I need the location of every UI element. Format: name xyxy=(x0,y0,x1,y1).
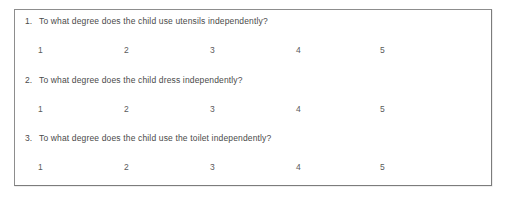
scale-option-3-2[interactable]: 2 xyxy=(124,162,144,172)
question-block-1: 1. To what degree does the child use ute… xyxy=(15,16,491,61)
scale-option-3-5[interactable]: 5 xyxy=(380,162,400,172)
rating-scale-1: 1 2 3 4 5 xyxy=(15,45,491,61)
question-row-3: 3. To what degree does the child use the… xyxy=(15,133,491,149)
scale-option-1-4[interactable]: 4 xyxy=(296,45,316,55)
survey-page: 1. To what degree does the child use ute… xyxy=(0,0,510,203)
question-block-3: 3. To what degree does the child use the… xyxy=(15,133,491,178)
scale-option-3-3[interactable]: 3 xyxy=(210,162,230,172)
question-text-1: To what degree does the child use utensi… xyxy=(39,16,268,26)
question-number-3: 3. xyxy=(25,133,39,143)
scale-option-2-1[interactable]: 1 xyxy=(38,104,58,114)
scale-option-3-1[interactable]: 1 xyxy=(38,162,58,172)
scale-option-3-4[interactable]: 4 xyxy=(296,162,316,172)
scale-option-1-1[interactable]: 1 xyxy=(38,45,58,55)
question-text-3: To what degree does the child use the to… xyxy=(39,133,271,143)
scale-option-1-3[interactable]: 3 xyxy=(210,45,230,55)
scale-option-1-5[interactable]: 5 xyxy=(380,45,400,55)
question-number-2: 2. xyxy=(25,75,39,85)
questionnaire-box: 1. To what degree does the child use ute… xyxy=(14,9,492,186)
rating-scale-3: 1 2 3 4 5 xyxy=(15,162,491,178)
scale-option-1-2[interactable]: 2 xyxy=(124,45,144,55)
rating-scale-2: 1 2 3 4 5 xyxy=(15,104,491,120)
scale-option-2-5[interactable]: 5 xyxy=(380,104,400,114)
question-number-1: 1. xyxy=(25,16,39,26)
question-row-2: 2. To what degree does the child dress i… xyxy=(15,75,491,91)
question-text-2: To what degree does the child dress inde… xyxy=(39,75,243,85)
question-row-1: 1. To what degree does the child use ute… xyxy=(15,16,491,32)
scale-option-2-3[interactable]: 3 xyxy=(210,104,230,114)
scale-option-2-2[interactable]: 2 xyxy=(124,104,144,114)
scale-option-2-4[interactable]: 4 xyxy=(296,104,316,114)
question-block-2: 2. To what degree does the child dress i… xyxy=(15,75,491,120)
